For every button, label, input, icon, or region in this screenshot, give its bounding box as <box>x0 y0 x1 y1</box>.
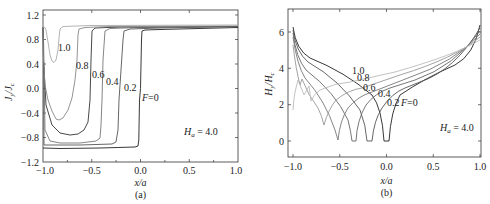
curve-label: 0.4 <box>106 76 119 87</box>
panel-b-ytick: 4 <box>279 63 284 74</box>
panel-a-ytick: 0.0 <box>27 83 40 94</box>
curve-label: F=0 <box>400 97 418 108</box>
panel-a: 1.2 0.8 0.4 0.0 −0.4 −0.8 −1.2 −1.0 −0.5… <box>3 10 242 202</box>
panel-b-caption: (b) <box>381 187 393 199</box>
curve-label: 0.2 <box>387 97 400 108</box>
panel-b-xtick: −1.0 <box>284 161 302 172</box>
panel-b: 6 4 2 0 −1.0 −0.5 0.0 0.5 1.0 x/a (b) Hy… <box>263 9 486 199</box>
panel-b-xtick: −0.5 <box>331 161 349 172</box>
panel-a-xtick: 0.0 <box>134 165 147 176</box>
curve-label: 1.0 <box>58 42 71 53</box>
panel-a-ylabel: Jy/Jc <box>3 82 16 101</box>
panel-a-xtick: 0.5 <box>183 165 196 176</box>
panel-b-ytick: 0 <box>279 136 284 147</box>
panel-b-xtick: 1.0 <box>474 161 487 172</box>
svg-text:Jy/Jc: Jy/Jc <box>3 82 16 101</box>
curve-label: 0.8 <box>76 60 89 71</box>
panel-a-xtick: −0.5 <box>83 165 101 176</box>
panel-a-xtick: 1.0 <box>230 165 243 176</box>
panel-a-caption: (a) <box>135 189 146 201</box>
panel-b-ytick: 6 <box>279 27 284 38</box>
panel-b-xtick: 0.5 <box>427 161 440 172</box>
panel-b-ylabel: Hy/Hc <box>263 71 276 96</box>
panel-a-ytick: 0.8 <box>27 34 40 45</box>
curve-F0.8 <box>293 37 480 125</box>
panel-a-ytick: 1.2 <box>27 10 40 21</box>
curve-label: 0.6 <box>363 82 376 93</box>
figure: 1.2 0.8 0.4 0.0 −0.4 −0.8 −1.2 −1.0 −0.5… <box>0 0 490 204</box>
curve-F1.0 <box>43 25 238 63</box>
panel-a-ytick: 0.4 <box>27 59 40 70</box>
panel-b-ytick: 2 <box>279 99 284 110</box>
panel-a-ytick: −0.4 <box>21 108 39 119</box>
panel-a-ha-annotation: Ha = 4.0 <box>183 126 218 139</box>
curve-label: F=0 <box>141 92 159 103</box>
panel-a-xtick: −1.0 <box>36 165 54 176</box>
panel-b-ha-annotation: Ha = 4.0 <box>439 122 474 135</box>
curve-label: 0.2 <box>124 82 137 93</box>
panel-b-frame <box>288 9 481 157</box>
panel-b-ticks <box>288 9 481 157</box>
panel-a-ytick: −0.8 <box>21 132 39 143</box>
panel-a-xlabel: x/a <box>133 177 146 188</box>
panel-b-xtick: 0.0 <box>380 161 393 172</box>
svg-text:Hy/Hc: Hy/Hc <box>263 71 276 96</box>
panel-b-xlabel: x/a <box>379 175 392 186</box>
curve-label: 0.6 <box>92 69 105 80</box>
